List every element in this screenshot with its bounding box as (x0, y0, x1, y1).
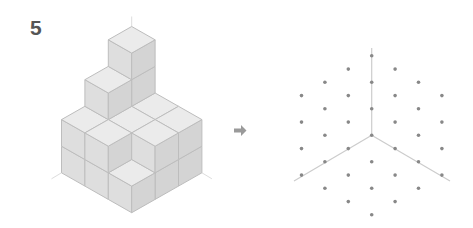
grid-dot (417, 160, 421, 164)
grid-dot (393, 67, 397, 71)
grid-dot (300, 173, 304, 177)
grid-dot (440, 94, 444, 98)
grid-dot (370, 187, 374, 191)
grid-dot (440, 173, 444, 177)
grid-dot (370, 160, 374, 164)
grid-dot (300, 147, 304, 151)
grid-dot (300, 120, 304, 124)
grid-axis-line (372, 135, 450, 181)
grid-dot (417, 81, 421, 85)
grid-axis-line (294, 135, 372, 181)
grid-dot (393, 94, 397, 98)
grid-dot (370, 213, 374, 217)
grid-dot (300, 94, 304, 98)
grid-dot (393, 147, 397, 151)
grid-dot (370, 107, 374, 111)
grid-dot (370, 54, 374, 58)
grid-dot (347, 120, 351, 124)
grid-dot (370, 81, 374, 85)
grid-dot (440, 120, 444, 124)
grid-dot (347, 67, 351, 71)
grid-dot (323, 134, 327, 138)
grid-dot (347, 200, 351, 204)
grid-dot (417, 107, 421, 111)
grid-dot (323, 107, 327, 111)
grid-dot (440, 147, 444, 151)
isometric-dot-grid[interactable] (0, 0, 473, 228)
grid-dot (417, 187, 421, 191)
grid-dot (347, 147, 351, 151)
grid-dot (393, 120, 397, 124)
grid-dot (417, 134, 421, 138)
grid-dot (393, 173, 397, 177)
grid-dot (323, 81, 327, 85)
grid-dot (323, 187, 327, 191)
worksheet-problem: 5 (0, 0, 473, 228)
grid-dot (347, 173, 351, 177)
grid-dot (323, 160, 327, 164)
grid-dot (393, 200, 397, 204)
grid-dot (347, 94, 351, 98)
grid-dot (370, 134, 374, 138)
